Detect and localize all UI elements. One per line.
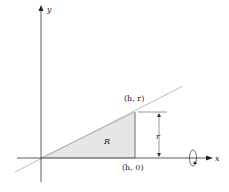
dimension-arrow-up-icon [157, 113, 161, 117]
x-axis-arrow-icon [206, 156, 213, 161]
x-axis-label: x [215, 154, 220, 163]
region-label: R [103, 137, 110, 146]
line-y-equals-rx-over-h [15, 86, 183, 172]
diagram-canvas: y x (h, r) (h, 0) R r [0, 0, 229, 192]
y-axis-arrow-icon [39, 5, 44, 11]
height-label: r [156, 132, 161, 141]
y-axis-label: y [46, 5, 52, 14]
point-label-top: (h, r) [124, 94, 144, 103]
dimension-arrow-down-icon [157, 153, 161, 157]
point-label-bottom: (h, 0) [122, 163, 144, 172]
